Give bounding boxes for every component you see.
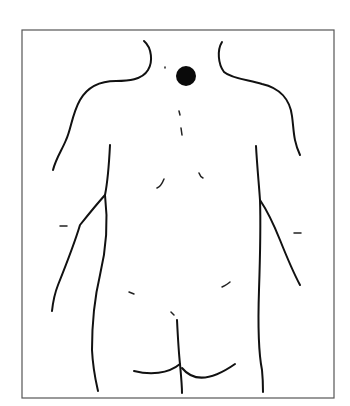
left-hip-mark <box>129 292 134 294</box>
left-scapula-mark <box>157 179 164 188</box>
sacral-mark <box>171 312 174 315</box>
left-neck-shoulder-outline <box>53 41 151 170</box>
right-buttock-outline <box>182 364 235 378</box>
right-hip-mark <box>222 282 230 287</box>
right-neck-shoulder-outline <box>219 42 300 155</box>
right-scapula-mark <box>199 173 203 178</box>
right-arm-outline <box>260 200 300 285</box>
location-marker-dot <box>176 66 196 86</box>
left-buttock-outline <box>134 364 180 373</box>
right-torso-outline <box>256 146 263 392</box>
gluteal-cleft <box>177 320 182 393</box>
spine-mark-1 <box>179 111 180 115</box>
body-diagram <box>0 0 350 406</box>
spine-mark-2 <box>181 128 182 135</box>
left-torso-outline <box>92 145 110 391</box>
